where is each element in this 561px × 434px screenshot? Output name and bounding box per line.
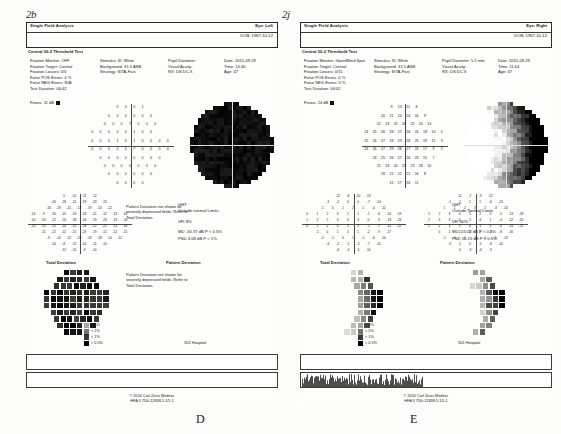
model-line: HFA II 750i-12838-5.1/5.1	[300, 399, 552, 404]
deviation-value: -12	[61, 249, 66, 252]
deviation-value: -1	[367, 225, 370, 228]
deviation-value: -1	[346, 243, 349, 246]
deviation-value: -19	[92, 231, 97, 234]
sensitivity-value: 17	[423, 148, 427, 152]
sensitivity-value: 0	[142, 132, 144, 136]
probability-symbol	[483, 316, 488, 321]
sensitivity-value: 29	[389, 148, 393, 152]
probability-symbol	[351, 270, 356, 275]
total-deviation-numeric-plot: -5-10-11-12-16-18-22-19-23-15-16-19-21-1…	[28, 194, 132, 254]
probability-symbol	[84, 277, 89, 282]
handwritten-mark-1: 2j	[282, 8, 290, 20]
sensitivity-value: 0	[146, 165, 148, 169]
deviation-value: -16	[51, 213, 56, 216]
deviation-value: -1	[316, 231, 319, 234]
deviation-value: -23	[82, 213, 87, 216]
deviation-value: -11	[458, 195, 462, 198]
probability-symbol	[80, 283, 85, 288]
pattern-deviation-probability-plot	[440, 270, 512, 340]
sensitivity-value: 0	[142, 157, 144, 161]
deviation-value: -2	[336, 201, 339, 204]
index-line: PSD 4.08 dB P < 1%	[178, 236, 276, 242]
probability-symbol	[77, 277, 82, 282]
sensitivity-value: 16	[406, 182, 410, 186]
sensitivity-value: 0	[116, 182, 118, 186]
grayscale-cell	[255, 176, 259, 180]
param-column-col2: Stimulus: III, WhiteBackground: 31.5 ASB…	[374, 58, 415, 75]
foveal-threshold: Fovea: 11 dB	[30, 100, 60, 105]
deviation-value: -15	[386, 225, 391, 228]
probability-symbol	[358, 296, 363, 301]
sensitivity-value: 26	[406, 132, 410, 136]
probability-symbol	[480, 277, 485, 282]
sensitivity-value: 24	[415, 132, 419, 136]
param-line: RX: DS DC X	[442, 69, 485, 75]
sensitivity-value: 11	[406, 106, 410, 110]
deviation-value: -11	[82, 195, 86, 198]
sensitivity-value: 0	[137, 165, 139, 169]
legend-symbol	[84, 341, 89, 346]
legend-label: < 1%	[91, 335, 100, 339]
sensitivity-value: 0	[108, 140, 110, 144]
sensitivity-value: 0	[150, 132, 152, 136]
deviation-value: -15	[61, 213, 66, 216]
handwritten-mark-0: 2b	[26, 8, 36, 20]
deviation-value: -6	[489, 243, 492, 246]
probability-symbol	[490, 316, 495, 321]
panel-letter-d: D	[196, 412, 205, 427]
deviation-value: -1	[458, 243, 461, 246]
test-type-label: Central 30-2 Threshold Test	[28, 49, 83, 54]
eye-label: Eye: Left	[255, 23, 273, 29]
probability-symbol	[493, 296, 498, 301]
sensitivity-value: 26	[406, 157, 410, 161]
sensitivity-value: 25	[415, 140, 419, 144]
param-column-col1: Fixation Monitor: Gaze/Blind SpotFixatio…	[304, 58, 365, 92]
foveal-threshold: Fovea: 24 dB	[304, 100, 334, 105]
grayscale-cell	[258, 172, 262, 176]
sensitivity-value: 20	[381, 115, 385, 119]
eye-label: Eye: Right	[526, 23, 547, 29]
deviation-value: -7	[468, 195, 471, 198]
deviation-value: -1	[321, 207, 324, 210]
deviation-value: 2	[347, 231, 349, 234]
indices-block: GHTOutside Normal LimitsVFI 60%MD -15.02…	[452, 202, 550, 242]
probability-symbol	[377, 290, 382, 295]
probability-symbol	[84, 296, 89, 301]
deviation-value: -1	[443, 237, 446, 240]
param-column-col4: Date: 2015-09-29Time: 14:40Age: 47	[224, 58, 256, 75]
deviation-value: 1	[357, 213, 359, 216]
probability-symbol	[84, 310, 89, 315]
sensitivity-value: 1	[142, 106, 144, 110]
probability-symbol	[486, 303, 491, 308]
probability-symbol	[371, 296, 376, 301]
sensitivity-value: 0	[125, 106, 127, 110]
grayscale-cell	[544, 149, 548, 153]
sensitivity-value: 0	[167, 140, 169, 144]
probability-symbol	[51, 296, 56, 301]
sensitivity-value: 0	[154, 165, 156, 169]
probability-symbol	[371, 310, 376, 315]
deviation-value: -9	[42, 213, 45, 216]
gaze-tracking-strip-2	[300, 372, 552, 388]
sensitivity-value: 17	[398, 182, 402, 186]
sensitivity-value: 21	[406, 174, 410, 178]
deviation-value: -14	[97, 207, 102, 210]
deviation-value: -13	[41, 225, 46, 228]
deviation-value: 3	[337, 213, 339, 216]
sensitivity-value: 0	[104, 123, 106, 127]
probability-symbol	[103, 296, 108, 301]
probability-symbol	[486, 310, 491, 315]
sensitivity-value: 0	[142, 182, 144, 186]
deviation-value: -7	[367, 201, 370, 204]
probability-symbol	[61, 316, 66, 321]
deviation-value: -14	[376, 201, 381, 204]
legend-symbol	[84, 329, 89, 334]
deviation-value: -6	[377, 213, 380, 216]
probability-symbol	[344, 329, 349, 334]
deviation-value: -15	[102, 201, 107, 204]
sensitivity-value: 0	[108, 115, 110, 119]
param-line: Pupil Diameter: 5.1 mm	[442, 58, 485, 64]
probability-symbol	[64, 323, 69, 328]
deviation-value: 3	[449, 219, 451, 222]
sensitivity-value: 0	[104, 165, 106, 169]
